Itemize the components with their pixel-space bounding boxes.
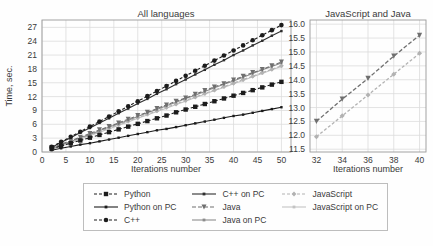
legend-item-javascript: JavaScript	[281, 189, 378, 199]
legend-item-c-on-pc: C++ on PC	[191, 189, 266, 199]
javascript-and-java-ytick: 14.0	[288, 75, 305, 85]
all-languages-xtick: 15	[109, 155, 119, 165]
legend-label-javascript-on-pc: JavaScript on PC	[312, 202, 378, 212]
all-languages-xtick: 0	[40, 155, 45, 165]
all-languages-ytick: 24	[28, 36, 38, 46]
right-chart-title: JavaScript and Java	[325, 8, 411, 19]
left-yaxis-label: Time, sec.	[4, 65, 14, 106]
javascript-and-java-ytick: 13.5	[288, 89, 305, 99]
legend-label-c-: C++	[124, 215, 140, 225]
legend-swatch-python-on-pc	[93, 202, 119, 212]
all-languages-xtick: 45	[253, 155, 263, 165]
javascript-and-java-plot: 323436384011.512.012.513.013.514.014.515…	[288, 19, 426, 165]
all-languages-ytick: 15	[28, 78, 38, 88]
all-languages-xtick: 50	[277, 155, 287, 165]
charts-canvas: 0510152025303540455003691215182124273234…	[0, 0, 433, 180]
javascript-and-java-ytick: 12.0	[288, 130, 305, 140]
figure: 0510152025303540455003691215182124273234…	[0, 0, 433, 246]
legend-item-c-: C++	[93, 215, 176, 225]
all-languages-ytick: 3	[32, 133, 37, 143]
all-languages-xtick: 35	[205, 155, 215, 165]
all-languages-ytick: 12	[28, 92, 38, 102]
all-languages-xtick: 10	[85, 155, 95, 165]
javascript-and-java-ytick: 15.0	[288, 47, 305, 57]
legend-column: JavaScriptJavaScript on PC	[281, 189, 378, 225]
all-languages-ytick: 9	[32, 105, 37, 115]
all-languages-xtick: 5	[64, 155, 69, 165]
legend-item-javascript-on-pc: JavaScript on PC	[281, 202, 378, 212]
legend-label-javascript: JavaScript	[312, 189, 352, 199]
legend-swatch-python	[93, 189, 119, 199]
legend-column: C++ on PCJavaJava on PC	[191, 189, 266, 225]
legend: PythonPython on PCC++C++ on PCJavaJava o…	[83, 183, 388, 231]
javascript-and-java-ytick: 16.0	[288, 19, 305, 29]
javascript-and-java-ytick: 11.5	[289, 144, 305, 154]
legend-swatch-java	[191, 202, 217, 212]
legend-label-c-on-pc: C++ on PC	[222, 189, 264, 199]
right-xaxis-label: Iterations number	[333, 164, 403, 174]
javascript-and-java-ytick: 15.5	[288, 33, 305, 43]
left-chart-title: All languages	[137, 8, 194, 19]
javascript-and-java-ytick: 14.5	[288, 61, 305, 71]
legend-item-python-on-pc: Python on PC	[93, 202, 176, 212]
legend-swatch-java-on-pc	[191, 215, 217, 225]
legend-swatch-javascript-on-pc	[281, 202, 307, 212]
legend-label-java-on-pc: Java on PC	[222, 215, 266, 225]
legend-swatch-c-	[93, 215, 119, 225]
legend-label-python: Python	[124, 189, 150, 199]
left-xaxis-label: Iterations number	[131, 164, 201, 174]
all-languages-ytick: 18	[28, 64, 38, 74]
all-languages-ytick: 0	[32, 147, 37, 157]
javascript-and-java-xtick: 40	[415, 155, 425, 165]
javascript-and-java-ytick: 12.5	[288, 116, 305, 126]
legend-label-java: Java	[222, 202, 240, 212]
javascript-and-java-xtick: 32	[312, 155, 322, 165]
all-languages-plot: 051015202530354045500369121518212427	[28, 20, 291, 165]
all-languages-ytick: 21	[28, 50, 38, 60]
javascript-and-java-ytick: 13.0	[288, 103, 305, 113]
all-languages-ytick: 6	[32, 119, 37, 129]
legend-item-java-on-pc: Java on PC	[191, 215, 266, 225]
legend-label-python-on-pc: Python on PC	[124, 202, 176, 212]
legend-item-python: Python	[93, 189, 176, 199]
all-languages-ytick: 27	[28, 22, 38, 32]
legend-swatch-c-on-pc	[191, 189, 217, 199]
legend-item-java: Java	[191, 202, 266, 212]
all-languages-xtick: 40	[229, 155, 239, 165]
legend-column: PythonPython on PCC++	[93, 189, 176, 225]
legend-swatch-javascript	[281, 189, 307, 199]
